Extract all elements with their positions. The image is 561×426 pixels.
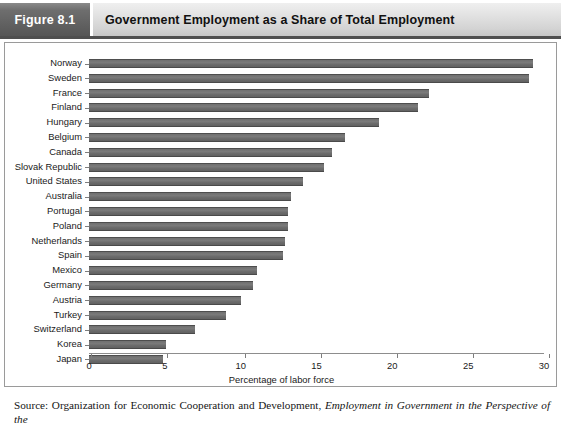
source-note: Source: Organization for Economic Cooper… xyxy=(14,398,550,426)
bar xyxy=(89,148,332,157)
bar-row: Netherlands xyxy=(89,235,544,250)
category-label: Slovak Republic xyxy=(15,160,82,173)
x-tick-mark xyxy=(321,354,322,358)
category-label: Austria xyxy=(53,293,82,306)
category-label: Switzerland xyxy=(34,322,82,335)
x-tick-label: 15 xyxy=(311,360,321,371)
category-label: Turkey xyxy=(54,308,82,321)
bar xyxy=(89,89,429,98)
bar-row: Germany xyxy=(89,279,544,294)
bar-row: Portugal xyxy=(89,205,544,220)
x-tick: 20 xyxy=(392,354,402,371)
category-label: Netherlands xyxy=(31,234,82,247)
x-tick-mark xyxy=(473,354,474,358)
bar xyxy=(89,340,166,349)
category-label: Finland xyxy=(51,100,82,113)
bar-row: Switzerland xyxy=(89,323,544,338)
x-tick: 5 xyxy=(165,354,170,371)
figure-header: Figure 8.1 Government Employment as a Sh… xyxy=(0,3,561,36)
bar-row: France xyxy=(89,87,544,102)
bar xyxy=(89,74,529,83)
bar-row: Finland xyxy=(89,101,544,116)
category-label: United States xyxy=(26,174,82,187)
x-tick-label: 0 xyxy=(86,360,91,371)
bar-row: Spain xyxy=(89,249,544,264)
x-axis-label: Percentage of labor force xyxy=(5,374,558,385)
x-tick: 10 xyxy=(241,354,251,371)
bar-row: Poland xyxy=(89,220,544,235)
chart-frame: NorwaySwedenFranceFinlandHungaryBelgiumC… xyxy=(4,42,557,387)
bar-row: Hungary xyxy=(89,116,544,131)
bar-row: Turkey xyxy=(89,309,544,324)
plot-area: NorwaySwedenFranceFinlandHungaryBelgiumC… xyxy=(89,57,544,353)
bar-row: Mexico xyxy=(89,264,544,279)
bar xyxy=(89,177,303,186)
category-label: Norway xyxy=(50,56,82,69)
x-tick-mark xyxy=(549,354,550,358)
category-label: Australia xyxy=(46,189,82,202)
bar-row: Sweden xyxy=(89,72,544,87)
x-tick: 15 xyxy=(317,354,327,371)
x-tick: 0 xyxy=(89,354,94,371)
bar-row: Australia xyxy=(89,190,544,205)
category-label: Canada xyxy=(49,145,82,158)
category-label: Sweden xyxy=(48,71,82,84)
bar xyxy=(89,133,345,142)
category-label: Mexico xyxy=(52,263,82,276)
x-tick-label: 25 xyxy=(463,360,473,371)
source-prefix: Source: Organization for Economic Cooper… xyxy=(14,399,321,411)
x-tick-label: 20 xyxy=(387,360,397,371)
x-tick-label: 10 xyxy=(235,360,245,371)
bar xyxy=(89,311,226,320)
bar xyxy=(89,266,257,275)
x-tick-mark xyxy=(245,354,246,358)
bar xyxy=(89,296,241,305)
category-label: Germany xyxy=(43,278,82,291)
x-tick: 25 xyxy=(468,354,478,371)
figure-title: Government Employment as a Share of Tota… xyxy=(105,13,455,27)
bar xyxy=(89,222,288,231)
x-tick-mark xyxy=(91,354,92,358)
figure-title-bar: Government Employment as a Share of Tota… xyxy=(93,3,561,36)
bar xyxy=(89,103,418,112)
bar-row: Slovak Republic xyxy=(89,161,544,176)
category-label: Hungary xyxy=(47,115,82,128)
bar xyxy=(89,237,285,246)
bar-row: Belgium xyxy=(89,131,544,146)
bar-row: Canada xyxy=(89,146,544,161)
category-label: Poland xyxy=(53,219,82,232)
bar xyxy=(89,59,533,68)
bar xyxy=(89,207,288,216)
bar xyxy=(89,325,195,334)
bar xyxy=(89,251,283,260)
header-divider-rule xyxy=(0,36,561,39)
x-tick: 30 xyxy=(544,354,554,371)
category-label: Belgium xyxy=(48,130,82,143)
bar-rows: NorwaySwedenFranceFinlandHungaryBelgiumC… xyxy=(89,57,544,353)
bar xyxy=(89,163,324,172)
category-label: Spain xyxy=(58,248,82,261)
figure-number-badge: Figure 8.1 xyxy=(0,3,93,36)
bar xyxy=(89,192,291,201)
bar-row: United States xyxy=(89,175,544,190)
category-label: Japan xyxy=(56,352,82,365)
category-label: Korea xyxy=(57,337,82,350)
x-tick-label: 30 xyxy=(539,360,549,371)
x-tick-label: 5 xyxy=(162,360,167,371)
category-label: Portugal xyxy=(47,204,82,217)
category-label: France xyxy=(53,86,82,99)
bar-row: Korea xyxy=(89,338,544,353)
bar xyxy=(89,281,253,290)
bar-row: Austria xyxy=(89,294,544,309)
bar-row: Norway xyxy=(89,57,544,72)
x-tick-mark xyxy=(167,354,168,358)
x-tick-mark xyxy=(397,354,398,358)
bar xyxy=(89,118,379,127)
